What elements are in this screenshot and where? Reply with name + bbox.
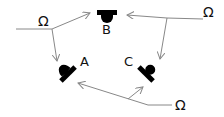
detector-diagram: Ω Ω Ω B A C <box>0 0 224 117</box>
detector-c-label: C <box>124 54 133 69</box>
detector-b-label: B <box>102 22 111 37</box>
source-top-left: Ω <box>16 13 90 61</box>
source-bottom: Ω <box>78 83 186 113</box>
detector-a-label: A <box>80 54 89 69</box>
detector-c <box>137 59 161 83</box>
source-top-right: Ω <box>127 4 214 59</box>
detector-a <box>53 59 77 83</box>
detector-b: B <box>97 10 117 37</box>
omega-label-top-right: Ω <box>203 4 214 20</box>
omega-label-bottom: Ω <box>175 97 186 113</box>
omega-label-top-left: Ω <box>38 13 49 29</box>
